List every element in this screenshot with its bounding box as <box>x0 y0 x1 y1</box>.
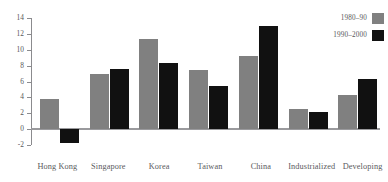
bar <box>40 99 59 129</box>
bar <box>139 39 158 129</box>
y-tick-label: 14 <box>17 13 24 23</box>
y-tick-label: 2 <box>20 108 24 118</box>
cropped-title <box>0 0 388 6</box>
y-tick-label: 6 <box>20 77 24 87</box>
y-tick: 2 <box>27 113 31 114</box>
y-tick: -2 <box>27 145 31 146</box>
bar <box>189 70 208 129</box>
bar <box>309 112 328 129</box>
y-tick-label: 8 <box>20 61 24 71</box>
y-tick: 14 <box>27 18 31 19</box>
y-tick-label: 0 <box>20 124 24 134</box>
y-tick: 10 <box>27 50 31 51</box>
x-axis-label: China <box>235 162 286 171</box>
plot-area: 14121086420-2 <box>31 18 380 145</box>
bar <box>159 63 178 129</box>
bar-group <box>330 18 380 145</box>
bar-group <box>181 18 231 145</box>
x-axis-label: Hong Kong <box>32 162 83 171</box>
x-axis-labels: Hong KongSingaporeKoreaTaiwanChinaIndust… <box>32 162 388 171</box>
bar-group <box>82 18 132 145</box>
bar-chart: 1980–90 1990–2000 14121086420-2 Hong Kon… <box>0 0 388 182</box>
bar <box>358 79 377 129</box>
bar <box>239 56 258 129</box>
bar <box>209 86 228 129</box>
bar <box>90 74 109 130</box>
x-axis-label: Singapore <box>83 162 134 171</box>
bar-group <box>32 18 82 145</box>
bar-group <box>231 18 281 145</box>
bar-group <box>281 18 331 145</box>
x-axis-label: Taiwan <box>185 162 236 171</box>
y-tick-label: 10 <box>17 45 24 55</box>
x-axis-label: Industrialized <box>286 162 337 171</box>
y-tick-label: 4 <box>20 92 24 102</box>
y-tick: 8 <box>27 66 31 67</box>
bar <box>338 95 357 129</box>
bar-group <box>131 18 181 145</box>
y-tick: 6 <box>27 82 31 83</box>
bar <box>289 109 308 129</box>
bar <box>110 69 129 129</box>
bar-groups <box>32 18 380 145</box>
x-axis-label: Developing <box>337 162 388 171</box>
y-tick-label: -2 <box>18 140 24 150</box>
bar <box>60 129 79 142</box>
bar <box>259 26 278 129</box>
y-tick: 4 <box>27 97 31 98</box>
y-tick-label: 12 <box>17 29 24 39</box>
y-tick: 0 <box>27 129 31 130</box>
y-tick: 12 <box>27 34 31 35</box>
x-axis-label: Korea <box>134 162 185 171</box>
